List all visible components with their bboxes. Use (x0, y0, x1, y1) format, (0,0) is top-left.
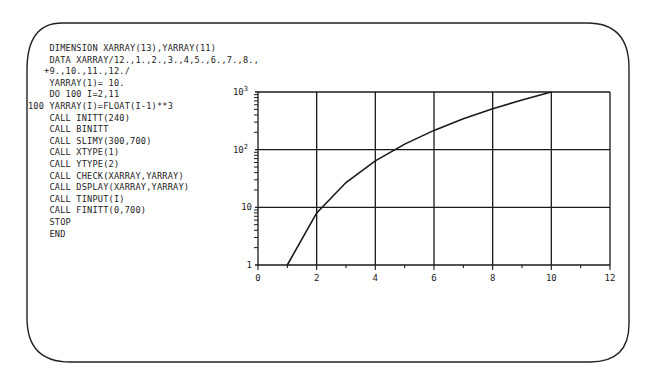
y-tick-label: 103 (233, 85, 248, 97)
axis-labels: 024681012110102103 (233, 85, 615, 283)
data-curve (287, 92, 551, 265)
axis-ticks (254, 95, 610, 270)
x-tick-label: 4 (373, 273, 378, 283)
y-tick-label: 102 (233, 143, 248, 155)
log-linear-plot: 024681012110102103 (0, 0, 655, 386)
x-tick-label: 8 (490, 273, 495, 283)
x-tick-label: 10 (546, 273, 557, 283)
x-tick-label: 2 (314, 273, 319, 283)
y-tick-label: 1 (247, 260, 252, 270)
plot-grid (255, 92, 610, 265)
y-tick-label: 10 (241, 202, 252, 212)
x-tick-label: 0 (255, 273, 260, 283)
x-tick-label: 12 (605, 273, 616, 283)
x-tick-label: 6 (431, 273, 436, 283)
